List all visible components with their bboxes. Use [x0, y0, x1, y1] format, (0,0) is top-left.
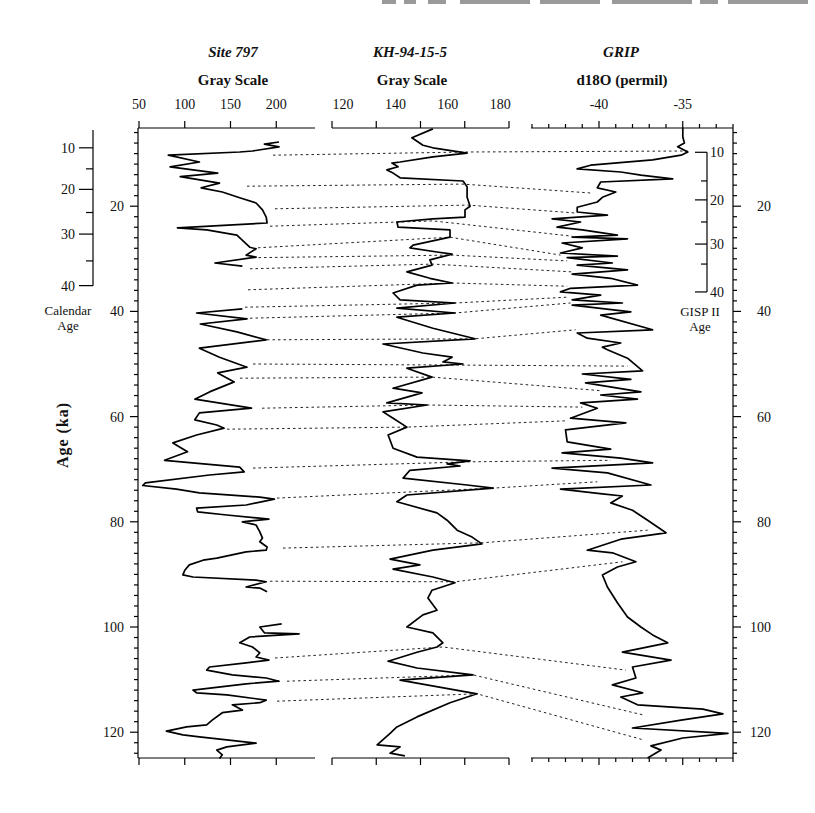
gisp-age-label-line1: GISP II	[680, 304, 720, 319]
x-tick-label: -40	[590, 97, 609, 112]
calendar-tick-label: 30	[61, 227, 75, 242]
panel-title-grip: GRIP	[603, 44, 640, 60]
right-tick-label: 40	[757, 304, 771, 319]
xlabel-grip: d18O (permil)	[576, 72, 667, 89]
left-tick-label: 60	[110, 410, 124, 425]
right-tick-label: 80	[757, 515, 771, 530]
calendar-age-label-line2: Age	[57, 318, 79, 333]
calendar-age-label-line1: Calendar	[45, 303, 93, 318]
x-tick-label: 160	[437, 97, 458, 112]
gisp-tick-label: 20	[710, 193, 724, 208]
x-tick-label: 150	[220, 97, 241, 112]
gisp-tick-label: 40	[710, 285, 724, 300]
figure: Site 797 Gray Scale KH-94-15-5 Gray Scal…	[0, 0, 815, 813]
calendar-tick-label: 20	[61, 182, 75, 197]
left-tick-label: 20	[110, 199, 124, 214]
panel-title-site797: Site 797	[208, 44, 258, 60]
x-tick-label: -35	[673, 97, 692, 112]
calendar-tick-label: 40	[61, 279, 75, 294]
right-tick-label: 100	[750, 620, 771, 635]
background	[0, 0, 815, 813]
x-tick-label: 100	[174, 97, 195, 112]
x-tick-label: 120	[333, 97, 354, 112]
left-tick-label: 100	[103, 620, 124, 635]
xlabel-kh: Gray Scale	[377, 72, 448, 88]
right-tick-label: 60	[757, 410, 771, 425]
calendar-tick-label: 10	[61, 141, 75, 156]
x-tick-label: 200	[266, 97, 287, 112]
left-tick-label: 120	[103, 725, 124, 740]
left-tick-label: 40	[110, 304, 124, 319]
x-tick-label: 140	[385, 97, 406, 112]
right-tick-label: 20	[757, 199, 771, 214]
gisp-tick-label: 30	[710, 237, 724, 252]
y-axis-label: Age (ka)	[54, 402, 72, 468]
x-tick-label: 180	[490, 97, 511, 112]
panel-title-kh: KH-94-15-5	[372, 44, 448, 60]
left-tick-label: 80	[110, 515, 124, 530]
x-tick-label: 50	[132, 97, 146, 112]
right-tick-label: 120	[750, 725, 771, 740]
cropped-header-fragment	[382, 0, 808, 4]
gisp-age-label-line2: Age	[689, 319, 711, 334]
gisp-tick-label: 10	[710, 145, 724, 160]
xlabel-site797: Gray Scale	[198, 72, 269, 88]
